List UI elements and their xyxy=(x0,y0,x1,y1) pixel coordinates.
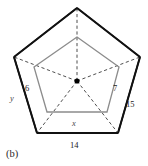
label-outer-bottom-14: 14 xyxy=(70,141,79,150)
radial-line-bottom-right xyxy=(77,81,118,133)
label-outer-left-y: y xyxy=(10,94,14,103)
figure-container: y 6 7 15 x 14 (b) xyxy=(0,0,148,166)
radial-line-right xyxy=(77,57,140,81)
outer-edge-top-right xyxy=(77,8,140,57)
radial-line-bottom-left xyxy=(37,81,77,133)
outer-edge-left xyxy=(14,57,37,133)
label-inner-left-6: 6 xyxy=(25,84,29,93)
outer-edge-top-left xyxy=(14,8,77,57)
radial-line-left xyxy=(14,57,77,81)
label-inner-right-7: 7 xyxy=(113,84,117,93)
radial-dashed-lines xyxy=(14,8,140,133)
outer-edge-right xyxy=(118,57,140,133)
inner-pentagon xyxy=(34,37,119,112)
center-dot xyxy=(74,78,79,83)
label-outer-right-15: 15 xyxy=(126,100,135,109)
figure-caption: (b) xyxy=(6,149,18,160)
label-inner-bottom-x: x xyxy=(72,119,76,128)
